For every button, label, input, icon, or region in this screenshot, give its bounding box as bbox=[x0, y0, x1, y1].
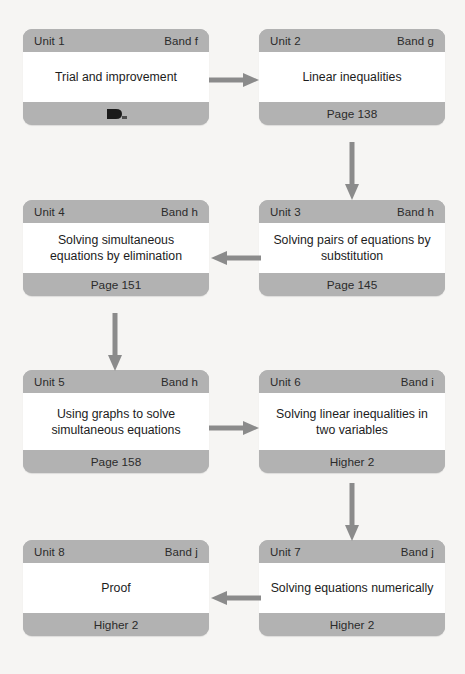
unit-footer: Page 158 bbox=[23, 450, 209, 473]
unit-card-header: Unit 5 Band h bbox=[23, 370, 209, 393]
unit-label: Unit 5 bbox=[34, 376, 65, 388]
unit-card-header: Unit 7 Band j bbox=[259, 540, 445, 563]
unit-footer: Higher 2 bbox=[259, 450, 445, 473]
unit-title: Proof bbox=[23, 563, 209, 613]
unit-label: Unit 8 bbox=[34, 546, 65, 558]
unit-label: Unit 3 bbox=[270, 206, 301, 218]
unit-footer: Page 138 bbox=[259, 102, 445, 125]
arrow-unit3-to-unit4 bbox=[209, 250, 261, 266]
unit-footer: Page 151 bbox=[23, 273, 209, 296]
band-label: Band j bbox=[401, 546, 434, 558]
unit-title: Linear inequalities bbox=[259, 52, 445, 102]
unit-card-3[interactable]: Unit 3 Band h Solving pairs of equations… bbox=[259, 200, 445, 296]
unit-label: Unit 4 bbox=[34, 206, 65, 218]
arrow-unit2-to-unit3 bbox=[344, 142, 360, 202]
unit-footer: Higher 2 bbox=[23, 613, 209, 636]
band-label: Band f bbox=[164, 35, 198, 47]
unit-card-header: Unit 8 Band j bbox=[23, 540, 209, 563]
unit-card-header: Unit 1 Band f bbox=[23, 29, 209, 52]
unit-title: Solving simultaneous equations by elimin… bbox=[23, 223, 209, 273]
unit-card-header: Unit 3 Band h bbox=[259, 200, 445, 223]
unit-card-header: Unit 6 Band i bbox=[259, 370, 445, 393]
flowchart-canvas: Unit 1 Band f Trial and improvement Unit… bbox=[0, 0, 465, 674]
arrow-unit4-to-unit5 bbox=[107, 313, 123, 373]
unit-label: Unit 1 bbox=[34, 35, 65, 47]
unit-label: Unit 2 bbox=[270, 35, 301, 47]
band-label: Band j bbox=[165, 546, 198, 558]
band-label: Band h bbox=[161, 376, 198, 388]
arrow-unit5-to-unit6 bbox=[209, 420, 261, 436]
unit-footer: Higher 2 bbox=[259, 613, 445, 636]
unit-title: Solving linear inequalities in two varia… bbox=[259, 393, 445, 450]
band-label: Band i bbox=[401, 376, 434, 388]
band-label: Band h bbox=[161, 206, 198, 218]
band-label: Band h bbox=[397, 206, 434, 218]
unit-label: Unit 7 bbox=[270, 546, 301, 558]
unit-card-header: Unit 4 Band h bbox=[23, 200, 209, 223]
unit-card-5[interactable]: Unit 5 Band h Using graphs to solve simu… bbox=[23, 370, 209, 473]
unit-label: Unit 6 bbox=[270, 376, 301, 388]
unit-card-8[interactable]: Unit 8 Band j Proof Higher 2 bbox=[23, 540, 209, 636]
unit-title: Solving equations numerically bbox=[259, 563, 445, 613]
band-label: Band g bbox=[397, 35, 434, 47]
smudge-icon bbox=[103, 107, 129, 121]
unit-card-4[interactable]: Unit 4 Band h Solving simultaneous equat… bbox=[23, 200, 209, 296]
unit-card-header: Unit 2 Band g bbox=[259, 29, 445, 52]
arrow-unit7-to-unit8 bbox=[209, 590, 261, 606]
unit-title: Trial and improvement bbox=[23, 52, 209, 102]
unit-card-7[interactable]: Unit 7 Band j Solving equations numerica… bbox=[259, 540, 445, 636]
arrow-unit6-to-unit7 bbox=[344, 483, 360, 543]
unit-title: Using graphs to solve simultaneous equat… bbox=[23, 393, 209, 450]
arrow-unit1-to-unit2 bbox=[209, 72, 261, 88]
unit-title: Solving pairs of equations by substituti… bbox=[259, 223, 445, 273]
unit-footer: Page 145 bbox=[259, 273, 445, 296]
unit-card-1[interactable]: Unit 1 Band f Trial and improvement bbox=[23, 29, 209, 125]
unit-card-6[interactable]: Unit 6 Band i Solving linear inequalitie… bbox=[259, 370, 445, 473]
unit-card-2[interactable]: Unit 2 Band g Linear inequalities Page 1… bbox=[259, 29, 445, 125]
unit-footer bbox=[23, 102, 209, 125]
